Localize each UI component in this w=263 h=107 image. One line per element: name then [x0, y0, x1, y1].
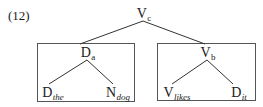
- node-right-head: Vb: [200, 45, 215, 62]
- node-left-head-label: D: [81, 45, 91, 60]
- node-left-child-dog-subscript: dog: [117, 92, 131, 102]
- node-root-subscript: c: [147, 13, 151, 23]
- node-right-child-it-subscript: it: [242, 92, 247, 102]
- node-root: Vc: [137, 6, 152, 23]
- node-right-child-likes: Vlikes: [163, 85, 190, 102]
- node-left-child-dog-label: N: [106, 85, 116, 100]
- node-left-head-subscript: a: [91, 52, 95, 62]
- node-left-child-the-subscript: the: [53, 92, 64, 102]
- node-right-child-it-label: D: [231, 85, 241, 100]
- node-left-child-the: Dthe: [42, 85, 64, 102]
- edge-root-left: [80, 21, 143, 44]
- node-right-child-likes-subscript: likes: [174, 92, 191, 102]
- node-right-child-likes-label: V: [163, 85, 173, 100]
- node-left-child-dog: Ndog: [106, 85, 130, 102]
- node-right-child-it: Dit: [231, 85, 247, 102]
- example-number: (12): [8, 8, 30, 24]
- node-root-label: V: [137, 6, 147, 21]
- node-left-head: Da: [81, 45, 96, 62]
- node-right-head-subscript: b: [211, 52, 216, 62]
- edge-root-right: [143, 21, 205, 44]
- node-left-child-the-label: D: [42, 85, 52, 100]
- node-right-head-label: V: [200, 45, 210, 60]
